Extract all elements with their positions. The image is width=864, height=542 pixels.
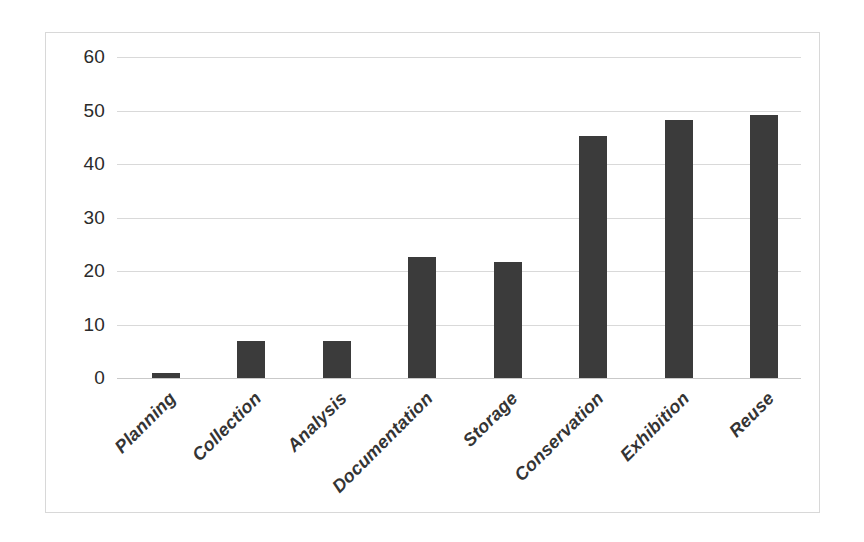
y-axis-tick-label: 10: [83, 314, 105, 336]
gridline: [117, 164, 801, 165]
x-axis-tick-label: Exhibition: [616, 388, 694, 466]
gridline: [117, 218, 801, 219]
x-axis-tick-label: Reuse: [725, 388, 779, 442]
x-axis-tick-label: Conservation: [510, 388, 608, 486]
y-axis-tick-label: 30: [83, 207, 105, 229]
x-axis-tick-label: Analysis: [283, 388, 351, 456]
x-axis-tick-label: Storage: [459, 388, 522, 451]
y-axis-tick-label: 60: [83, 46, 105, 68]
y-axis-tick-label: 40: [83, 153, 105, 175]
x-axis-tick-label: Collection: [188, 388, 266, 466]
y-axis-tick-label: 50: [83, 100, 105, 122]
chart-frame: 0102030405060 PlanningCollectionAnalysis…: [45, 32, 820, 513]
bar: [579, 136, 607, 378]
bar: [665, 120, 693, 378]
bar: [494, 262, 522, 378]
bar: [408, 257, 436, 378]
y-axis-tick-label: 0: [94, 367, 105, 389]
bar: [237, 341, 265, 378]
bar: [323, 341, 351, 378]
axis-baseline: [117, 378, 801, 379]
bar: [152, 373, 180, 378]
bar: [750, 115, 778, 378]
gridline: [117, 57, 801, 58]
gridline: [117, 271, 801, 272]
x-axis-labels: PlanningCollectionAnalysisDocumentationS…: [117, 382, 801, 502]
gridline: [117, 111, 801, 112]
gridline: [117, 325, 801, 326]
x-axis-tick-label: Planning: [111, 388, 181, 458]
y-axis-tick-label: 20: [83, 260, 105, 282]
plot-area: 0102030405060: [117, 57, 801, 378]
